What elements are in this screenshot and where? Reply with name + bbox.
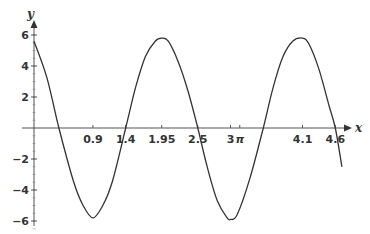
x-axis-label: x — [354, 121, 363, 135]
x-tick-label: 3 — [227, 133, 235, 146]
y-tick-label: −4 — [12, 184, 29, 197]
x-tick-label: 2.5 — [188, 133, 208, 146]
chart: x y 0.91.41.952.53π4.14.6 642−2−4−6 — [0, 0, 370, 234]
x-tick-label: 4.1 — [293, 133, 313, 146]
x-tick-label: 1.4 — [116, 133, 136, 146]
x-tick-label: 0.9 — [83, 133, 103, 146]
y-tick: 6 — [21, 29, 37, 42]
y-tick-label: 6 — [21, 29, 29, 42]
x-tick-label: 1.95 — [148, 133, 175, 146]
y-tick-label: −2 — [12, 153, 29, 166]
y-tick: −2 — [12, 153, 37, 166]
x-tick-label: 4.6 — [326, 133, 346, 146]
x-axis-arrow-icon — [344, 125, 352, 132]
y-tick-label: −6 — [12, 215, 29, 228]
y-axis-label: y — [26, 7, 35, 21]
y-tick: 2 — [21, 91, 37, 104]
y-axis-arrow-icon — [31, 20, 38, 28]
x-tick-label: π — [235, 133, 244, 146]
y-tick: −4 — [12, 184, 37, 197]
y-tick: 4 — [21, 60, 37, 73]
data-series-curve — [34, 38, 342, 220]
y-tick-label: 2 — [21, 91, 29, 104]
y-tick: −6 — [12, 215, 37, 228]
y-tick-label: 4 — [21, 60, 29, 73]
